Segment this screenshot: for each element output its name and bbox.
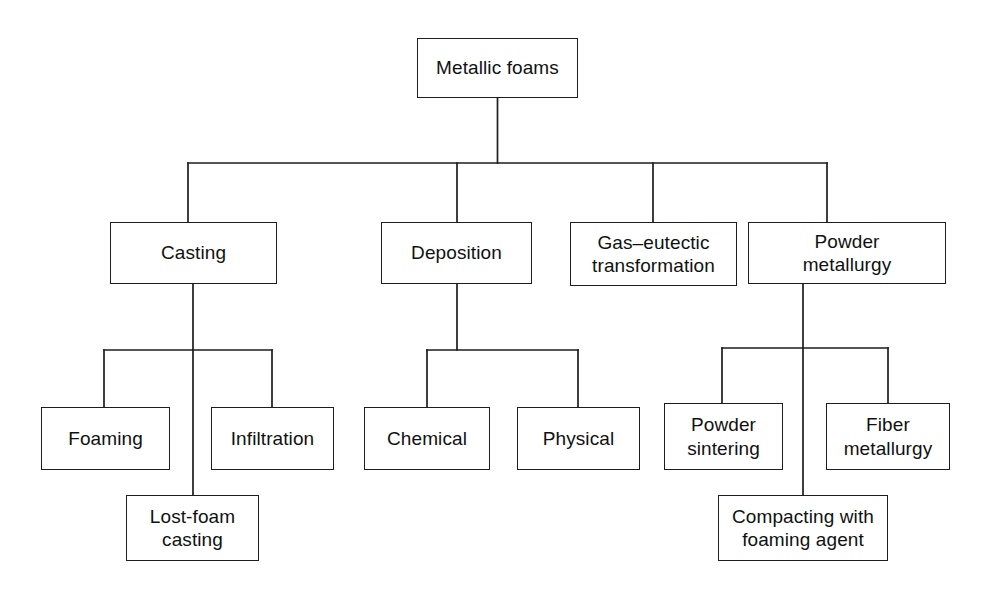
node-label-metallic-foams: Metallic foams xyxy=(436,56,559,79)
node-label-gas-eutectic-transformation: Gas–eutectic transformation xyxy=(592,231,715,277)
node-compacting-with-foaming-agent[interactable]: Compacting with foaming agent xyxy=(718,495,888,561)
node-deposition[interactable]: Deposition xyxy=(381,222,532,284)
node-label-fiber-metallurgy: Fiber metallurgy xyxy=(844,413,933,459)
node-label-deposition: Deposition xyxy=(411,241,502,264)
node-metallic-foams[interactable]: Metallic foams xyxy=(417,38,578,98)
node-label-compacting-with-foaming-agent: Compacting with foaming agent xyxy=(732,505,874,551)
node-gas-eutectic-transformation[interactable]: Gas–eutectic transformation xyxy=(570,222,737,286)
node-infiltration[interactable]: Infiltration xyxy=(211,407,334,470)
node-label-chemical: Chemical xyxy=(387,427,467,450)
node-label-powder-metallurgy: Powder metallurgy xyxy=(803,230,892,276)
node-label-infiltration: Infiltration xyxy=(231,427,315,450)
node-label-casting: Casting xyxy=(161,241,226,264)
node-casting[interactable]: Casting xyxy=(110,222,277,284)
node-lost-foam-casting[interactable]: Lost-foam casting xyxy=(126,495,259,561)
node-label-foaming: Foaming xyxy=(68,427,143,450)
node-powder-metallurgy[interactable]: Powder metallurgy xyxy=(748,222,946,284)
node-label-physical: Physical xyxy=(543,427,615,450)
node-physical[interactable]: Physical xyxy=(517,407,640,470)
node-powder-sintering[interactable]: Powder sintering xyxy=(664,403,783,470)
node-foaming[interactable]: Foaming xyxy=(41,407,170,470)
flowchart-canvas: Metallic foamsCastingDepositionGas–eutec… xyxy=(0,0,987,589)
node-chemical[interactable]: Chemical xyxy=(364,407,490,470)
node-label-powder-sintering: Powder sintering xyxy=(687,413,760,459)
node-label-lost-foam-casting: Lost-foam casting xyxy=(150,505,235,551)
node-fiber-metallurgy[interactable]: Fiber metallurgy xyxy=(826,403,950,470)
